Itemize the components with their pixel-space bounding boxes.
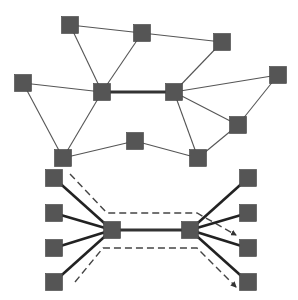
top-node-B	[134, 25, 151, 42]
top-node-I	[127, 133, 144, 150]
top-node-G	[270, 67, 287, 84]
bottom-node-R3	[240, 240, 257, 257]
bottom-node-L4	[46, 274, 63, 291]
bottom-node-R2	[240, 205, 257, 222]
top-edge-E-J	[63, 92, 102, 158]
top-edge-B-C	[142, 33, 222, 42]
network-diagram	[0, 0, 298, 300]
bottom-node-R1	[240, 170, 257, 187]
top-edge-F-G	[174, 75, 278, 92]
top-node-E	[94, 84, 111, 101]
bottom-node-M	[104, 222, 121, 239]
dashed-flow-path-2	[75, 248, 236, 287]
top-node-A	[62, 17, 79, 34]
top-edge-F-H	[174, 92, 238, 125]
bottom-graph-edges	[54, 178, 248, 282]
top-node-F	[166, 84, 183, 101]
bottom-node-R4	[240, 274, 257, 291]
top-node-C	[214, 34, 231, 51]
top-edge-D-J	[23, 83, 63, 158]
top-node-H	[230, 117, 247, 134]
top-graph-edges	[23, 25, 278, 158]
bottom-node-L1	[46, 170, 63, 187]
top-edge-B-E	[102, 33, 142, 92]
top-edge-D-E	[23, 83, 102, 92]
top-edge-A-E	[70, 25, 102, 92]
bottom-node-L3	[46, 240, 63, 257]
bottom-node-N	[182, 222, 199, 239]
top-edge-J-I	[63, 141, 135, 158]
top-node-D	[15, 75, 32, 92]
top-node-K	[190, 150, 207, 167]
top-edge-I-K	[135, 141, 198, 158]
top-edge-A-B	[70, 25, 142, 33]
top-node-J	[55, 150, 72, 167]
bottom-node-L2	[46, 205, 63, 222]
